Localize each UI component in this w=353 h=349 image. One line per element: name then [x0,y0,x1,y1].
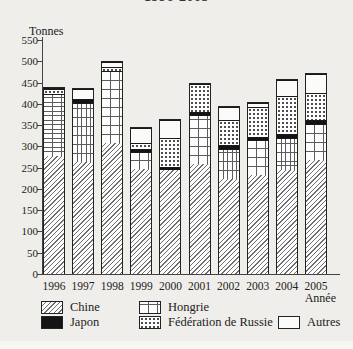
legend-label: Chine [70,300,100,315]
segment-grid [131,152,151,169]
segment-diagonal-hatch [73,162,93,274]
segment-diagonal-hatch [248,175,268,274]
bar-1996 [43,87,65,274]
legend-label: Hongrie [168,300,209,315]
segment-dots [277,96,297,134]
segment-diagonal-hatch [102,143,122,274]
legend-swatch-diagonal-hatch [41,301,63,314]
x-axis-title: Année [305,291,336,306]
segment-grid [219,149,239,179]
segment-diagonal-hatch [219,179,239,274]
segment-white [73,89,93,99]
y-tick-label: 200 [0,183,38,195]
segment-white [306,74,326,93]
segment-grid [248,140,268,175]
segment-white [131,128,151,143]
legend-swatch-solid-black [41,316,63,329]
bar-2005 [305,73,327,274]
bar-1998 [101,61,123,274]
legend-item-dots: Fédération de Russie [139,315,273,330]
segment-white [219,107,239,120]
segment-grid [190,115,210,164]
segment-diagonal-hatch [160,170,180,274]
y-tick-label: 250 [0,162,38,174]
segment-diagonal-hatch [190,164,210,274]
chart-title: 1996-2005 [0,0,353,5]
segment-diagonal-hatch [277,170,297,274]
legend-item-diagonal-hatch: Chine [41,300,100,315]
y-tick-label: 500 [0,55,38,67]
bar-2000 [159,119,181,274]
bar-1997 [72,88,94,274]
x-axis-line [42,274,340,275]
y-tick-label: 450 [0,77,38,89]
segment-grid [44,94,64,155]
y-tick-label: 300 [0,140,38,152]
y-tick-label: 50 [0,247,38,259]
segment-dots [160,138,180,167]
segment-grid [277,138,297,171]
footer-strip [0,341,353,349]
bar-2001 [189,83,211,274]
segment-grid [306,124,326,160]
segment-dots [306,93,326,121]
segment-white [160,120,180,139]
segment-grid [102,71,122,143]
bar-2004 [276,79,298,274]
legend-label: Fédération de Russie [168,315,273,330]
legend-swatch-grid [139,301,161,314]
y-tick-label: 150 [0,204,38,216]
segment-grid [73,103,93,162]
segment-white [277,80,297,96]
legend-item-white: Autres [278,315,340,330]
y-tick-label: 550 [0,34,38,46]
segment-dots [219,120,239,145]
y-tick-label: 350 [0,119,38,131]
segment-diagonal-hatch [44,156,64,274]
segment-diagonal-hatch [131,169,151,274]
y-tick-label: 400 [0,98,38,110]
segment-dots [190,84,210,112]
bar-1999 [130,127,152,274]
segment-dots [248,107,268,137]
y-tick-label: 0 [0,268,38,280]
legend-item-solid-black: Japon [41,315,99,330]
legend-item-grid: Hongrie [139,300,209,315]
legend-label: Autres [307,315,340,330]
legend-label: Japon [70,315,99,330]
chart-page: 1996-2005 Tonnes 05010015020025030035040… [0,0,353,349]
legend-swatch-white [278,316,300,329]
legend-swatch-dots [139,316,161,329]
bar-2002 [218,106,240,274]
bar-2003 [247,102,269,274]
y-tick-label: 100 [0,225,38,237]
segment-diagonal-hatch [306,160,326,274]
